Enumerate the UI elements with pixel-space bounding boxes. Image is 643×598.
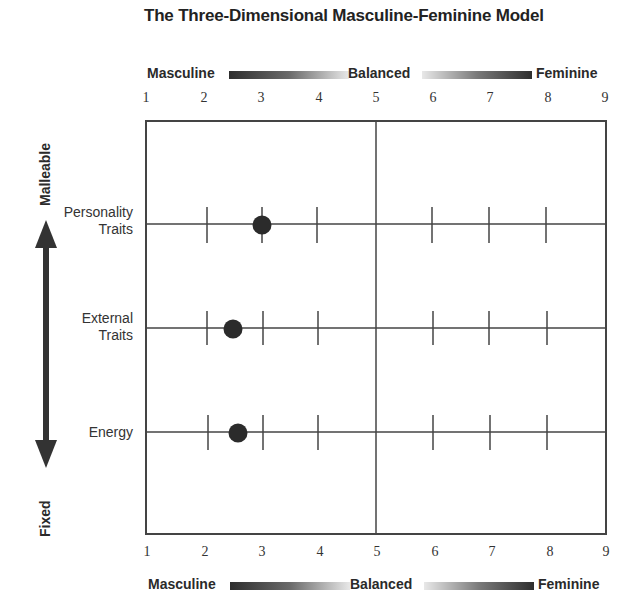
axis-label-fixed: Fixed <box>37 500 53 537</box>
row-label-line: Traits <box>82 327 133 344</box>
tick-label: 9 <box>603 544 610 560</box>
legend-balanced-label: Balanced <box>350 576 412 592</box>
row-label-line: Energy <box>89 424 133 441</box>
row-label-line: Traits <box>64 221 133 238</box>
malleable-fixed-arrow-icon <box>35 220 57 468</box>
legend-masculine-label: Masculine <box>148 576 216 592</box>
data-point <box>229 424 248 443</box>
tick-label: 3 <box>259 544 266 560</box>
gradient-bar-feminine <box>424 582 534 590</box>
plot-graphics <box>0 0 643 598</box>
axis-label-malleable: Malleable <box>37 143 53 206</box>
tick-label: 7 <box>489 544 496 560</box>
scale-bottom: 1 2 3 4 5 6 7 8 9 <box>0 544 643 564</box>
tick-label: 4 <box>317 544 324 560</box>
gradient-bar-masculine <box>230 582 350 590</box>
tick-label: 8 <box>547 544 554 560</box>
data-point <box>253 216 272 235</box>
row-label-external-traits: External Traits <box>82 310 133 344</box>
legend-feminine-label: Feminine <box>538 576 599 592</box>
tick-label: 5 <box>374 544 381 560</box>
row-label-energy: Energy <box>89 424 133 441</box>
tick-label: 1 <box>144 544 151 560</box>
row-label-line: Personality <box>64 204 133 221</box>
legend-bottom: Masculine Balanced Feminine <box>147 576 607 596</box>
tick-label: 6 <box>432 544 439 560</box>
row-label-line: External <box>82 310 133 327</box>
data-point <box>224 320 243 339</box>
row-label-personality-traits: Personality Traits <box>64 204 133 238</box>
tick-label: 2 <box>202 544 209 560</box>
